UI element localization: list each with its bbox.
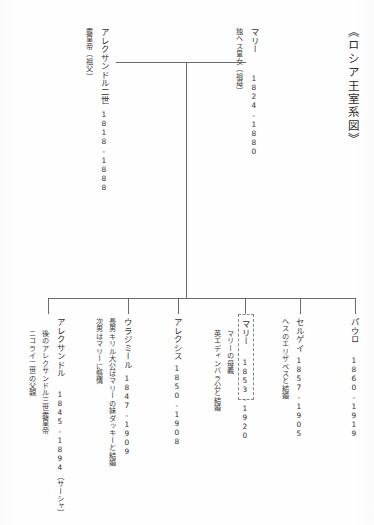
child-drop-line-4 (245, 298, 246, 314)
child-note: 英エディンバラ公と結婚 (214, 330, 221, 412)
marriage-connector-line (116, 62, 246, 63)
child-name: アレクシス (173, 318, 181, 361)
child-note: 長男キリル大公はマリーの妹ダッキーと結婚 (109, 318, 116, 467)
parent-father-dates: 1818-1888 (100, 110, 107, 192)
child-dates: 1860-1919 (350, 356, 357, 438)
child-name: アレクサンドル (56, 318, 64, 378)
child-note: マリーの母義 (227, 330, 234, 375)
child-drop-line-6 (355, 298, 356, 314)
child-dates: 1850-1908 (173, 364, 180, 446)
child-note: ヘスのエリザベスと結婚 (282, 318, 289, 400)
child-note: ニコライ二世の父親 (29, 330, 36, 397)
parent-father-name: アレクサンドル二世 (100, 28, 108, 105)
sibling-bar-line (48, 298, 355, 299)
child-dates: 1845-1894（サーシャ） (56, 390, 63, 515)
child-name: ウラジミール (123, 318, 131, 369)
parent-mother-dates: 1824-1880 (250, 74, 257, 156)
genealogy-chart-page: 《ロシア王室系図》 マリー 1824-1880 独ヘス皇女（祖母） アレクサンド… (0, 0, 374, 525)
parent-mother-name: マリー (250, 28, 258, 54)
page-title: 《ロシア王室系図》 (347, 26, 359, 146)
child-dates: 1857-1905 (295, 356, 302, 438)
child-note: 後のアレクサンドル三世露皇帝 (42, 330, 49, 434)
trunk-line (186, 62, 187, 298)
child-note: 次男はマリーに懸情 (96, 318, 103, 385)
child-drop-line-2 (128, 298, 129, 314)
child-dates: 1847-1909 (123, 374, 130, 456)
child-dates: 1853-1920 (241, 358, 248, 440)
child-name: パウロ (350, 318, 358, 344)
child-name: マリー (241, 320, 249, 346)
parent-father-role: 露皇帝（祖父） (86, 28, 93, 80)
child-drop-line-3 (178, 298, 179, 314)
child-name: セルゲイ (295, 318, 303, 352)
child-drop-line-1 (48, 298, 49, 314)
child-drop-line-5 (300, 298, 301, 314)
